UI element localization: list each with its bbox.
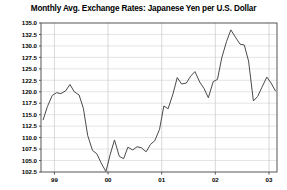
y-tick-label: 120.0 [22, 88, 38, 95]
x-tick-label: 00 [105, 176, 112, 183]
y-tick-label: 112.5 [22, 122, 38, 129]
y-tick-label: 117.5 [22, 99, 38, 106]
y-tick-label: 130.0 [22, 42, 38, 49]
y-tick-label: 110.0 [22, 134, 38, 141]
x-tick-label: 01 [158, 176, 165, 183]
y-tick-label: 107.5 [22, 145, 38, 152]
y-tick-label: 105.0 [22, 157, 38, 164]
x-tick-label: 03 [266, 176, 273, 183]
x-tick-label: 02 [212, 176, 219, 183]
y-tick-label: 115.0 [22, 111, 38, 118]
line-chart-plot: 102.5105.0107.5110.0112.5115.0117.5120.0… [0, 0, 287, 190]
y-tick-label: 135.0 [22, 19, 38, 26]
y-axis-tick-labels: 102.5105.0107.5110.0112.5115.0117.5120.0… [22, 19, 38, 175]
x-tick-label: 99 [51, 176, 58, 183]
plot-background [41, 23, 277, 172]
y-tick-label: 122.5 [22, 77, 38, 84]
chart-container: Monthly Avg. Exchange Rates: Japanese Ye… [0, 0, 287, 190]
y-tick-label: 127.5 [22, 54, 38, 61]
y-tick-label: 132.5 [22, 31, 38, 38]
y-tick-label: 102.5 [22, 168, 38, 175]
x-axis-tick-labels: 9900010203 [51, 176, 273, 183]
y-tick-label: 125.0 [22, 65, 38, 72]
